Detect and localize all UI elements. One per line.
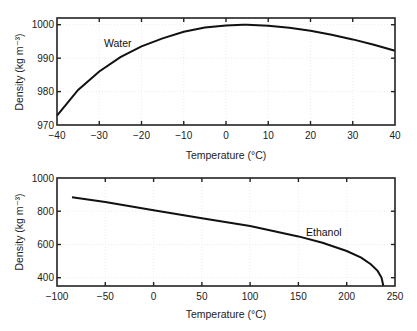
svg-text:150: 150 [290, 291, 307, 302]
ethanol-density-chart: Ethanol −100 −50 0 50 100 150 200 250 40… [13, 173, 404, 321]
svg-text:−40: −40 [49, 130, 66, 141]
svg-text:990: 990 [37, 53, 54, 64]
svg-text:250: 250 [387, 291, 404, 302]
svg-text:400: 400 [37, 272, 54, 283]
svg-text:970: 970 [37, 120, 54, 131]
top-y-tick-labels: 970 980 990 1000 [32, 19, 55, 131]
ethanol-series-label: Ethanol [306, 226, 342, 238]
svg-text:800: 800 [37, 206, 54, 217]
bottom-y-tick-labels: 400 600 800 1000 [32, 173, 55, 284]
svg-text:0: 0 [151, 291, 157, 302]
svg-text:1000: 1000 [32, 19, 55, 30]
bottom-grid [57, 178, 395, 286]
svg-text:100: 100 [242, 291, 259, 302]
top-y-axis-label: Density (kg m⁻³) [13, 33, 25, 110]
svg-text:−100: −100 [46, 291, 69, 302]
top-grid [57, 18, 395, 125]
svg-text:980: 980 [37, 86, 54, 97]
svg-text:−10: −10 [175, 130, 192, 141]
water-series-label: Water [104, 37, 132, 49]
svg-text:1000: 1000 [32, 173, 55, 184]
svg-text:200: 200 [338, 291, 355, 302]
ethanol-curve [72, 197, 383, 286]
svg-text:10: 10 [263, 130, 275, 141]
svg-text:600: 600 [37, 239, 54, 250]
bottom-plot-frame [57, 178, 395, 286]
water-density-chart: Water −40 −30 −20 −10 0 10 20 30 40 970 [13, 18, 401, 161]
top-x-tick-labels: −40 −30 −20 −10 0 10 20 30 40 [49, 130, 401, 141]
bottom-x-axis-label: Temperature (°C) [186, 308, 267, 320]
top-x-axis-label: Temperature (°C) [186, 149, 267, 161]
figure: Water −40 −30 −20 −10 0 10 20 30 40 970 [0, 0, 417, 331]
bottom-x-tick-labels: −100 −50 0 50 100 150 200 250 [46, 291, 404, 302]
svg-text:−20: −20 [133, 130, 150, 141]
bottom-y-axis-label: Density (kg m⁻³) [13, 193, 25, 270]
svg-text:20: 20 [305, 130, 317, 141]
svg-text:−30: −30 [91, 130, 108, 141]
svg-text:−50: −50 [97, 291, 114, 302]
bottom-ticks [57, 178, 395, 286]
svg-text:30: 30 [347, 130, 359, 141]
svg-text:0: 0 [223, 130, 229, 141]
svg-text:50: 50 [196, 291, 208, 302]
svg-text:40: 40 [389, 130, 401, 141]
